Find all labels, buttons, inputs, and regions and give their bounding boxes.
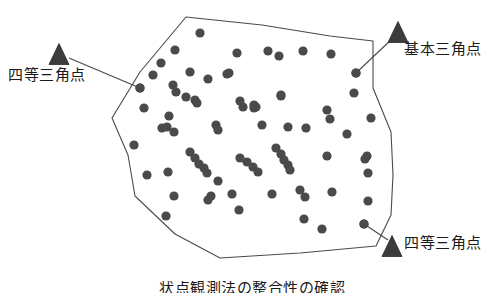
observation-point — [274, 51, 283, 60]
observation-point — [276, 91, 285, 100]
observation-point — [227, 189, 236, 198]
observation-point — [267, 189, 276, 198]
observation-point — [163, 167, 172, 176]
observation-point — [363, 196, 372, 205]
observation-point — [299, 214, 308, 223]
observation-point — [325, 114, 334, 123]
observation-point — [285, 165, 294, 174]
observation-point — [283, 122, 292, 131]
observation-point — [185, 67, 194, 76]
figure-caption: 状点観測法の整合性の確認 — [0, 281, 504, 293]
observation-point — [129, 140, 138, 149]
observation-point — [263, 46, 272, 55]
observation-point — [192, 98, 201, 107]
observation-point — [195, 28, 204, 37]
observation-point — [322, 105, 331, 114]
observation-point — [351, 68, 360, 77]
label-four-grade-triangulation-right: 四等三角点 — [404, 236, 482, 251]
observation-point — [148, 70, 157, 79]
observation-point — [317, 224, 326, 233]
label-basic-triangulation-point: 基本三角点 — [404, 42, 482, 57]
observation-point — [213, 176, 222, 185]
observation-point — [349, 88, 358, 97]
observation-point — [206, 191, 215, 200]
observation-point — [359, 219, 368, 228]
observation-point — [213, 125, 222, 134]
observation-point — [203, 74, 212, 83]
observation-point — [169, 127, 178, 136]
observation-point — [326, 49, 335, 58]
observation-point — [181, 92, 190, 101]
observation-point — [257, 120, 266, 129]
observation-point — [202, 168, 211, 177]
observation-point — [301, 123, 310, 132]
observation-point — [161, 211, 170, 220]
observation-point — [363, 168, 372, 177]
observation-point — [366, 113, 375, 122]
label-four-grade-triangulation-left: 四等三角点 — [8, 68, 86, 83]
observation-point — [135, 83, 144, 92]
observation-point — [251, 102, 260, 111]
observation-point — [300, 192, 309, 201]
observation-point — [157, 123, 166, 132]
observation-point — [169, 191, 178, 200]
observation-point — [360, 154, 369, 163]
observation-point — [253, 167, 262, 176]
observation-point — [142, 170, 151, 179]
observation-point — [238, 102, 247, 111]
observation-point — [224, 68, 233, 77]
observation-point — [171, 87, 180, 96]
observation-point — [327, 187, 336, 196]
observation-point — [342, 129, 351, 138]
observation-point — [322, 151, 331, 160]
observation-point — [139, 103, 148, 112]
observation-point — [298, 46, 307, 55]
observation-point — [232, 48, 241, 57]
observation-point — [156, 58, 165, 67]
observation-point — [164, 111, 173, 120]
observation-point — [170, 45, 179, 54]
observation-point — [234, 205, 243, 214]
